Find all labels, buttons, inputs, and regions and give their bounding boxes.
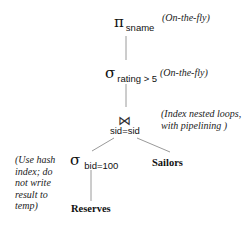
selection-rating-annotation: (On-the-fly) <box>160 67 208 79</box>
selection-bid-annotation-line: (Use hash <box>15 154 55 166</box>
selection-bid-node: σbid=100 <box>70 151 118 169</box>
selection-bid-annotation-line: result to <box>15 189 55 201</box>
reserves-relation: Reserves <box>71 203 111 214</box>
selection-rating-node: σrating > 5 <box>105 64 157 82</box>
edge-join-sailors <box>137 138 170 152</box>
sigma-symbol: σ <box>70 151 80 169</box>
selection-bid-annotation: (Use hash index; do not write result to … <box>15 154 55 212</box>
selection-bid-condition: bid=100 <box>84 160 118 171</box>
sigma-symbol: σ <box>105 64 115 82</box>
selection-bid-annotation-line: temp) <box>15 200 55 212</box>
projection-node: πsname <box>114 13 154 31</box>
projection-attribute: sname <box>126 22 155 33</box>
join-annotation-line: (Index nested loops, <box>161 108 241 120</box>
selection-bid-annotation-line: not write <box>15 177 55 189</box>
selection-rating-condition: rating > 5 <box>117 73 157 84</box>
join-condition: sid=sid <box>110 125 140 136</box>
join-annotation-line: with pipelining ) <box>161 120 241 132</box>
pi-symbol: π <box>114 13 124 31</box>
sailors-relation: Sailors <box>152 157 183 168</box>
selection-bid-annotation-line: index; do <box>15 166 55 178</box>
edge-join-selection-bid <box>92 138 114 151</box>
projection-annotation: (On-the-fly) <box>162 12 210 24</box>
join-annotation: (Index nested loops, with pipelining ) <box>161 108 241 131</box>
